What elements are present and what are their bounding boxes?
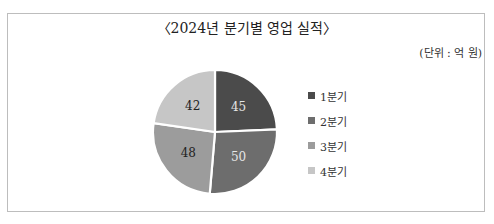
slice-value-label: 45 [231,100,246,114]
legend-label: 4분기 [320,163,347,179]
unit-label: (단위 : 억 원) [419,44,482,60]
legend-item-q3: 3분기 [308,135,347,156]
slice-value-label: 48 [181,146,196,160]
slice-value-label: 42 [185,99,200,113]
legend-swatch-icon [308,117,315,124]
chart-title: 〈2024년 분기별 영업 실적〉 [0,17,494,37]
slice-value-label: 50 [231,150,246,164]
legend-item-q2: 2분기 [308,110,347,131]
legend-swatch-icon [308,92,315,99]
legend-swatch-icon [308,167,315,174]
legend-label: 2분기 [320,113,347,129]
legend-label: 3분기 [320,138,347,154]
pie-chart: 45504842 [150,67,280,197]
legend-item-q4: 4분기 [308,160,347,181]
legend: 1분기 2분기 3분기 4분기 [308,85,347,185]
legend-label: 1분기 [320,88,347,104]
legend-item-q1: 1분기 [308,85,347,106]
legend-swatch-icon [308,142,315,149]
